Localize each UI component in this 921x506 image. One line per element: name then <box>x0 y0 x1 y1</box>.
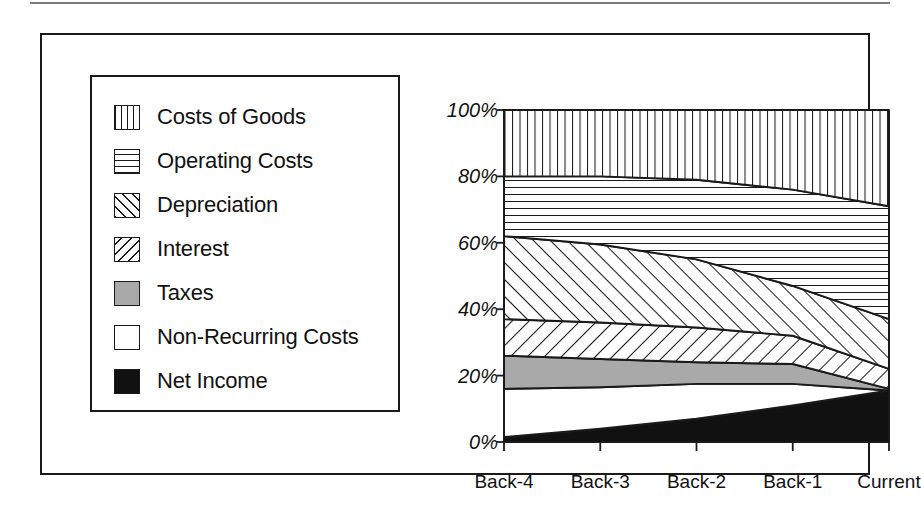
legend-label-non-recurring-costs: Non-Recurring Costs <box>157 326 359 348</box>
x-tick-label-2: Back-2 <box>667 471 726 493</box>
chart-legend: Costs of Goods Operating Costs Depreciat… <box>90 75 400 412</box>
top-rule <box>30 2 890 4</box>
chart-canvas <box>452 75 902 505</box>
legend-item-operating-costs: Operating Costs <box>114 139 398 183</box>
legend-swatch-costs-of-goods <box>114 105 140 130</box>
legend-swatch-net-income <box>114 369 140 394</box>
legend-swatch-operating-costs <box>114 149 140 174</box>
legend-item-costs-of-goods: Costs of Goods <box>114 95 398 139</box>
figure-frame: Costs of Goods Operating Costs Depreciat… <box>40 33 870 475</box>
legend-label-interest: Interest <box>157 238 229 260</box>
x-tick-label-0: Back-4 <box>474 471 533 493</box>
legend-swatch-non-recurring-costs <box>114 325 140 350</box>
legend-item-interest: Interest <box>114 227 398 271</box>
legend-label-operating-costs: Operating Costs <box>157 150 313 172</box>
legend-item-depreciation: Depreciation <box>114 183 398 227</box>
legend-item-net-income: Net Income <box>114 359 398 403</box>
legend-swatch-interest <box>114 237 140 262</box>
legend-label-taxes: Taxes <box>157 282 213 304</box>
x-tick-label-3: Back-1 <box>763 471 822 493</box>
legend-label-costs-of-goods: Costs of Goods <box>157 106 306 128</box>
stacked-area-chart: 0%20%40%60%80%100% Back-4Back-3Back-2Bac… <box>452 75 902 505</box>
legend-item-taxes: Taxes <box>114 271 398 315</box>
x-axis: Back-4Back-3Back-2Back-1Current <box>452 451 902 491</box>
legend-item-non-recurring-costs: Non-Recurring Costs <box>114 315 398 359</box>
legend-label-net-income: Net Income <box>157 370 268 392</box>
x-tick-label-4: Current <box>857 471 920 493</box>
legend-label-depreciation: Depreciation <box>157 194 278 216</box>
legend-swatch-depreciation <box>114 193 140 218</box>
x-tick-label-1: Back-3 <box>571 471 630 493</box>
legend-swatch-taxes <box>114 281 140 306</box>
